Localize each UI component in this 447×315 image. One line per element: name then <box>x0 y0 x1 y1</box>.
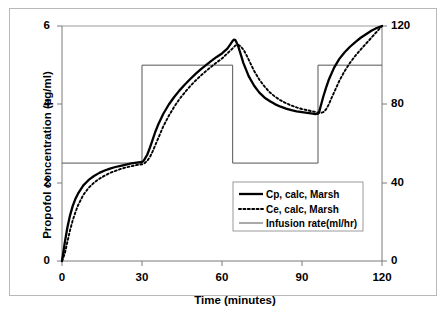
x-axis-title: Time (minutes) <box>70 294 400 306</box>
y-axis-left-ticks <box>57 26 62 261</box>
y-left-tick-0: 0 <box>10 254 50 266</box>
chart-legend: Cp, calc, Marsh Ce, calc, Marsh Infusion… <box>233 182 363 231</box>
chart-plot-area: Cp, calc, Marsh Ce, calc, Marsh Infusion… <box>10 9 438 297</box>
y-right-tick-40: 40 <box>391 176 431 188</box>
y-right-tick-0: 0 <box>391 254 431 266</box>
chart-figure: Cp, calc, Marsh Ce, calc, Marsh Infusion… <box>0 0 447 315</box>
x-tick-30: 30 <box>122 271 162 283</box>
legend-label-ce: Ce, calc, Marsh <box>266 204 339 215</box>
x-tick-0: 0 <box>42 271 82 283</box>
x-tick-120: 120 <box>362 271 402 283</box>
legend-label-infusion: Infusion rate(ml/hr) <box>266 218 357 229</box>
x-axis-ticks <box>62 261 382 266</box>
x-tick-90: 90 <box>282 271 322 283</box>
y-axis-left-title: Propofol concentration (µg/ml) <box>41 35 53 275</box>
x-tick-60: 60 <box>202 271 242 283</box>
figure-frame: Cp, calc, Marsh Ce, calc, Marsh Infusion… <box>9 8 437 296</box>
y-left-tick-4: 4 <box>10 97 50 109</box>
legend-label-cp: Cp, calc, Marsh <box>266 189 339 200</box>
y-left-tick-2: 2 <box>10 176 50 188</box>
series-line-infusion-rate <box>62 65 382 163</box>
y-axis-right-ticks <box>382 26 387 261</box>
y-right-tick-120: 120 <box>391 19 431 31</box>
y-right-tick-80: 80 <box>391 97 431 109</box>
y-left-tick-6: 6 <box>10 19 50 31</box>
